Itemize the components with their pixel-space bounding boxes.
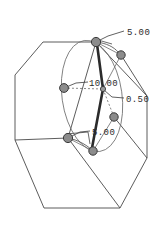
box-edge-vertical-diagonal [68, 42, 96, 138]
wireframe-diagram: 5.00 10.00 0.50 5.00 [0, 0, 163, 229]
drawing-canvas: 5.00 10.00 0.50 5.00 [0, 0, 163, 229]
node-upper-right[interactable] [117, 51, 125, 59]
box-outer-polygon [15, 42, 147, 208]
label-right-dimension: 0.50 [126, 95, 149, 105]
box-edge-left-horizontal [15, 138, 68, 140]
node-top[interactable] [91, 37, 100, 46]
bounding-box-inner-edges [15, 42, 147, 208]
box-edge-upper-right-diagonal [121, 55, 147, 96]
node-lower-right[interactable] [110, 113, 118, 121]
node-bottom[interactable] [89, 147, 97, 155]
label-bottom-dimension: 5.00 [92, 128, 115, 138]
label-top-dimension: 5.00 [127, 28, 150, 38]
node-mid-left[interactable] [60, 84, 69, 93]
box-edge-node-to-corner [114, 117, 147, 158]
node-bottom-left[interactable] [63, 133, 72, 142]
leader-right-dimension [104, 90, 124, 98]
bounding-box-outline [15, 42, 147, 208]
label-middle-dimension: 10.00 [89, 79, 118, 89]
